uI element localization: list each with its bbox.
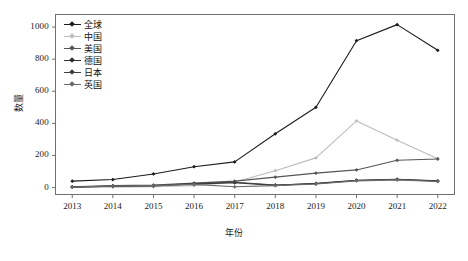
series-marker (395, 158, 399, 162)
legend-line-swatch (64, 68, 81, 77)
x-tick-label: 2020 (337, 201, 377, 211)
x-axis-title: 年份 (0, 226, 468, 239)
y-tick-label: 1000 (0, 21, 49, 31)
legend-line-swatch (64, 20, 81, 29)
x-tick-label: 2021 (377, 201, 417, 211)
series-marker (314, 171, 318, 175)
line-chart: 02004006008001000 2013201420152016201720… (0, 0, 468, 261)
y-tick-label: 200 (0, 149, 49, 159)
x-tick-label: 2019 (296, 201, 336, 211)
x-tick-label: 2016 (174, 201, 214, 211)
series-line (72, 25, 438, 182)
legend-item-label: 英国 (84, 80, 102, 90)
legend-line-swatch (64, 32, 81, 41)
legend-item-label: 全球 (84, 20, 102, 30)
series-marker (273, 184, 277, 188)
series-marker (111, 178, 115, 182)
legend-item[interactable]: 德国 (64, 55, 102, 66)
series-marker (70, 185, 74, 189)
series-marker (273, 169, 277, 173)
legend-item-label: 美国 (84, 44, 102, 54)
series-marker (70, 179, 74, 183)
y-axis-title: 数量 (12, 73, 25, 133)
y-tick-label: 600 (0, 85, 49, 95)
series-marker (355, 168, 359, 172)
legend-item[interactable]: 英国 (64, 79, 102, 90)
y-tick-label: 800 (0, 53, 49, 63)
x-tick-label: 2018 (255, 201, 295, 211)
series-marker (314, 182, 318, 186)
x-tick-label: 2015 (133, 201, 173, 211)
series-marker (355, 179, 359, 183)
series-marker (395, 178, 399, 182)
legend-item-label: 中国 (84, 32, 102, 42)
series-marker (152, 172, 156, 176)
series-line (72, 159, 438, 187)
series-marker (273, 175, 277, 179)
chart-legend: 全球中国美国德国日本英国 (62, 18, 105, 92)
legend-line-swatch (64, 80, 81, 89)
y-tick-label: 0 (0, 182, 49, 192)
legend-line-swatch (64, 44, 81, 53)
x-tick-label: 2013 (52, 201, 92, 211)
x-tick-label: 2022 (418, 201, 458, 211)
legend-item-label: 日本 (84, 68, 102, 78)
legend-item[interactable]: 全球 (64, 19, 102, 30)
y-tick-label: 400 (0, 117, 49, 127)
legend-item-label: 德国 (84, 56, 102, 66)
x-tick-label: 2014 (93, 201, 133, 211)
legend-line-swatch (64, 56, 81, 65)
series-marker (233, 185, 237, 189)
x-tick-label: 2017 (215, 201, 255, 211)
legend-item[interactable]: 中国 (64, 31, 102, 42)
series-marker (436, 180, 440, 184)
legend-item[interactable]: 日本 (64, 67, 102, 78)
legend-item[interactable]: 美国 (64, 43, 102, 54)
series-marker (192, 165, 196, 169)
series-marker (395, 138, 399, 142)
